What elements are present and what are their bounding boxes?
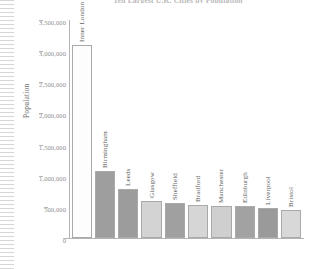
y-axis-tick: 1,500,000 <box>39 136 70 154</box>
y-axis-tick-label: 2,500,000 <box>39 81 70 88</box>
y-axis-tick: 1,000,000 <box>39 167 70 185</box>
bar-group: Bradford <box>187 20 210 238</box>
bar <box>258 208 278 238</box>
y-axis-title: Population <box>22 83 31 118</box>
bar <box>235 206 255 238</box>
y-axis-tick: 0 <box>63 229 70 247</box>
y-axis-tick-mark <box>44 207 48 208</box>
bar-category-label: Edinburgh <box>241 172 249 203</box>
bar-category-label: Glasgow <box>148 172 156 198</box>
bar-group: Sheffield <box>163 20 186 238</box>
bar-group: Glasgow <box>140 20 163 238</box>
y-axis-tick-label: 3,000,000 <box>39 50 70 57</box>
bar <box>95 171 115 238</box>
bar-category-label: Manchester <box>217 169 225 203</box>
bar <box>118 189 138 238</box>
bar <box>281 210 301 238</box>
y-axis-tick-label: 1,500,000 <box>39 144 70 151</box>
y-axis-tick-mark <box>39 145 43 146</box>
bar-group: Birmingham <box>93 20 116 238</box>
y-axis-tick: 2,000,000 <box>39 104 70 122</box>
bar <box>211 206 231 238</box>
x-axis-spine <box>64 238 304 239</box>
y-axis-tick-mark <box>39 20 43 21</box>
y-axis-tick-mark <box>39 176 43 177</box>
y-axis-tick-mark <box>39 82 43 83</box>
bar-category-label: Leeds <box>124 169 132 186</box>
bar-group: Manchester <box>210 20 233 238</box>
y-axis-tick: 3,500,000 <box>39 11 70 29</box>
bar-category-label: Bristol <box>287 187 295 207</box>
y-axis-tick: 3,000,000 <box>39 42 70 60</box>
chart-title: Ten Largest U.K. Cities by Population <box>58 0 298 3</box>
bar-group: Liverpool <box>256 20 279 238</box>
y-axis-tick-label: 1,000,000 <box>39 175 70 182</box>
bar <box>72 45 92 238</box>
y-axis-tick-mark <box>39 51 43 52</box>
bar-category-label: Bradford <box>194 176 202 202</box>
bar-group: Leeds <box>117 20 140 238</box>
y-axis-tick-mark <box>39 113 43 114</box>
y-axis-tick: 500,000 <box>44 198 70 216</box>
bar-group: Inner London <box>70 20 93 238</box>
bar-category-label: Liverpool <box>264 176 272 205</box>
y-axis-tick-mark <box>63 238 67 239</box>
bar <box>188 205 208 238</box>
y-axis-tick-label: 2,000,000 <box>39 112 70 119</box>
bar <box>165 203 185 238</box>
y-axis-tick-label: 3,500,000 <box>39 19 70 26</box>
bar-group: Edinburgh <box>233 20 256 238</box>
bar-category-label: Birmingham <box>101 131 109 168</box>
bar-category-label: Inner London <box>78 2 86 42</box>
bars-layer: Inner LondonBirminghamLeedsGlasgowSheffi… <box>70 20 303 238</box>
bar <box>141 201 161 238</box>
y-axis-tick: 2,500,000 <box>39 73 70 91</box>
bar-group: Bristol <box>280 20 303 238</box>
bar-chart-figure: Ten Largest U.K. Cities by Population 05… <box>0 0 310 269</box>
bar-category-label: Sheffield <box>171 173 179 200</box>
